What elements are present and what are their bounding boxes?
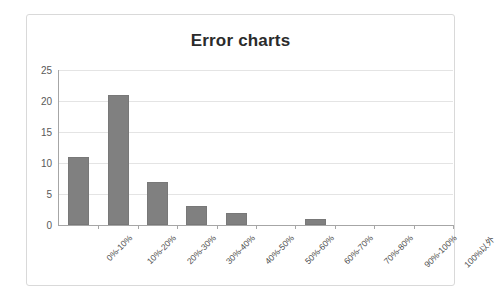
x-axis-tick-label: 30%-40% xyxy=(224,233,257,266)
x-axis-tick-label: 70%-80% xyxy=(381,233,414,266)
y-axis-tick-label: 15 xyxy=(41,127,52,138)
y-axis-tick-label: 0 xyxy=(46,220,52,231)
chart-frame: Error charts 0510152025 0%-10%10%-20%20%… xyxy=(26,14,455,286)
x-axis-tick xyxy=(374,225,375,229)
gridline xyxy=(59,70,453,71)
y-axis-tick-label: 5 xyxy=(46,189,52,200)
chart-title: Error charts xyxy=(27,31,454,51)
x-axis-tick-label: 50%-60% xyxy=(302,233,335,266)
x-axis-tick xyxy=(98,225,99,229)
x-axis-tick xyxy=(453,225,454,229)
plot-area: 0510152025 0%-10%10%-20%20%-30%30%-40%40… xyxy=(59,70,453,225)
x-axis-tick-label: 40%-50% xyxy=(263,233,296,266)
x-axis-tick-label: 0%-10% xyxy=(104,233,134,263)
y-axis-tick-label: 10 xyxy=(41,158,52,169)
y-axis-tick-label: 20 xyxy=(41,96,52,107)
x-axis-tick xyxy=(414,225,415,229)
x-axis-tick-label: 20%-30% xyxy=(184,233,217,266)
bar[interactable] xyxy=(305,219,326,225)
bar[interactable] xyxy=(186,206,207,225)
y-axis-line xyxy=(58,70,59,225)
y-axis-tick-label: 25 xyxy=(41,65,52,76)
x-axis-tick-label: 60%-70% xyxy=(342,233,375,266)
bar[interactable] xyxy=(108,95,129,225)
bar[interactable] xyxy=(147,182,168,225)
x-axis-tick-label: 90%-100% xyxy=(422,233,458,269)
x-axis-tick xyxy=(177,225,178,229)
x-axis-tick xyxy=(295,225,296,229)
bar[interactable] xyxy=(68,157,89,225)
x-axis-tick xyxy=(256,225,257,229)
x-axis-tick-label: 10%-20% xyxy=(145,233,178,266)
x-axis-tick xyxy=(217,225,218,229)
x-axis-tick xyxy=(335,225,336,229)
x-axis-tick-label: 100%以外 xyxy=(461,233,498,270)
bar[interactable] xyxy=(226,213,247,225)
x-axis-tick xyxy=(138,225,139,229)
